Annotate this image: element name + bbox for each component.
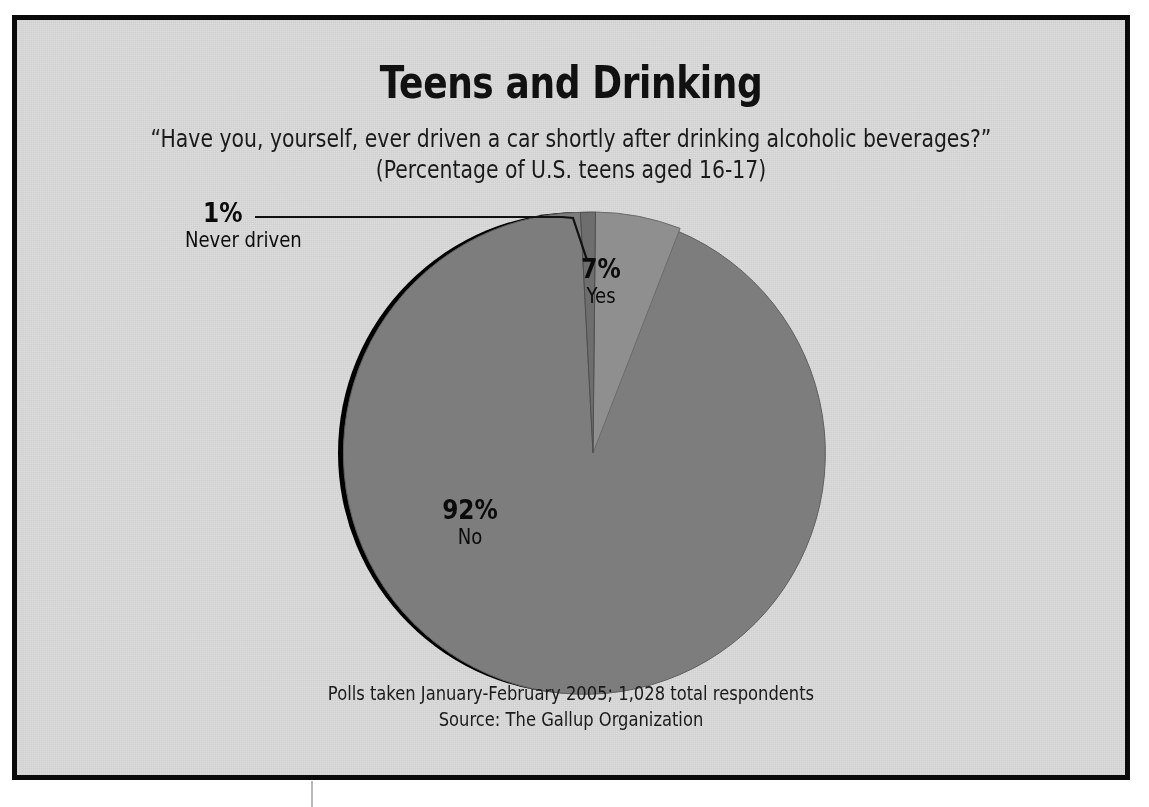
slice-label-yes: 7% Yes bbox=[555, 254, 647, 309]
chart-footer: Polls taken January-February 2005; 1,028… bbox=[17, 680, 1125, 732]
footer-source: Source: The Gallup Organization bbox=[95, 706, 1048, 732]
figure-frame: Teens and Drinking “Have you, yourself, … bbox=[12, 15, 1130, 780]
footer-poll-info: Polls taken January-February 2005; 1,028… bbox=[95, 680, 1048, 706]
yes-percent: 7% bbox=[561, 254, 640, 283]
never-driven-name: Never driven bbox=[185, 227, 348, 253]
slice-label-never-driven: 1% Never driven bbox=[185, 198, 375, 253]
pie-chart bbox=[17, 20, 1130, 780]
page-gutter-rule bbox=[311, 781, 313, 807]
no-name: No bbox=[414, 524, 526, 550]
yes-name: Yes bbox=[561, 283, 640, 309]
slice-label-no: 92% No bbox=[405, 495, 535, 550]
never-driven-percent: 1% bbox=[203, 198, 351, 227]
no-percent: 92% bbox=[414, 495, 526, 524]
